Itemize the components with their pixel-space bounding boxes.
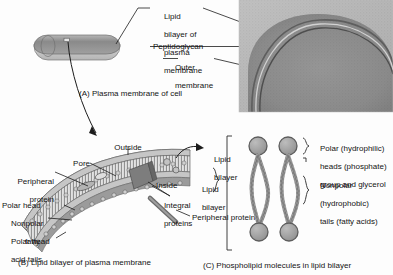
fatty-acid-tail: [258, 155, 268, 224]
brace-polar-heads: [303, 138, 309, 154]
phospholipid-molecule: [279, 137, 298, 241]
label-line: tails (fatty acids): [320, 217, 378, 226]
phospholipid-molecule: [249, 137, 268, 241]
polar-head-circle: [279, 137, 297, 155]
caption-panel-c: (C) Phospholipid molecules in lipid bila…: [203, 261, 351, 270]
label-nonpolar-hydrophobic-tails: Nonpolar (hydrophobic) tails (fatty acid…: [311, 172, 378, 235]
label-line: Polar (hydrophilic): [320, 144, 384, 153]
panel-c-bracket: [227, 136, 232, 250]
figure-root: Lipid bilayer of plasma membrane Peptido…: [0, 0, 393, 275]
fatty-acid-tail: [288, 155, 298, 224]
brace-nonpolar-tails: [303, 176, 309, 204]
label-line: heads (phosphate): [320, 162, 387, 171]
polar-head-circle: [250, 223, 268, 241]
label-line: Nonpolar: [320, 181, 352, 190]
polar-head-circle: [249, 137, 267, 155]
label-line: (hydrophobic): [320, 199, 369, 208]
polar-head-circle: [280, 223, 298, 241]
